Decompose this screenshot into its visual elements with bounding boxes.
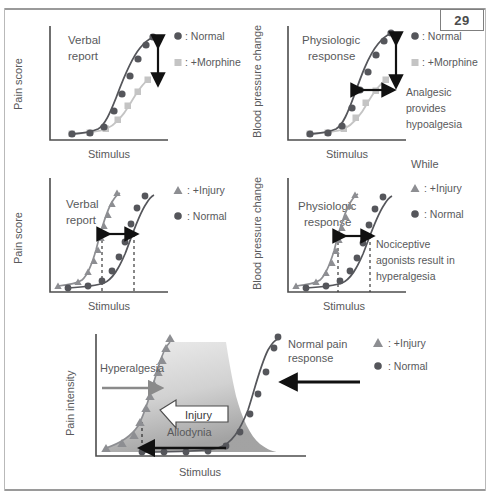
legend-label-injury: : +Injury xyxy=(424,182,462,194)
page-number-badge: 29 xyxy=(440,9,484,31)
legend: : Normal : +Morphine xyxy=(411,30,478,68)
label-allodynia: Allodynia xyxy=(167,426,213,438)
note-line2: provides xyxy=(406,102,446,114)
panel-top-left: Pain score Stimulus Verbal report xyxy=(6,12,246,162)
panel-title-line2: response xyxy=(308,50,355,62)
label-normal-line2: response xyxy=(288,352,333,364)
square-marker xyxy=(175,59,182,66)
page-rule-top xyxy=(4,8,486,10)
circle-marker xyxy=(174,32,182,40)
circle-marker xyxy=(411,32,419,40)
legend-label-normal: : Normal xyxy=(424,208,464,220)
panel-bottom: Pain intensity Stimulus xyxy=(60,326,490,491)
series-morphine xyxy=(307,77,390,138)
panel-title-line1: Verbal xyxy=(66,198,99,210)
panel-top-right: Blood pressure change Stimulus Physiolog… xyxy=(248,12,488,162)
label-injury: Injury xyxy=(185,409,212,421)
panel-title-line1: Verbal xyxy=(68,34,101,46)
legend-label-injury: : +Injury xyxy=(388,337,426,349)
note-analgesic: Analgesic provides hypoalgesia xyxy=(406,86,462,130)
panel-title-line1: Physiologic xyxy=(302,34,360,46)
x-axis-label: Stimulus xyxy=(179,466,222,478)
circle-marker xyxy=(174,212,182,220)
circle-marker xyxy=(411,210,419,218)
note-nociceptive: Nociceptive agonists result in hyperalge… xyxy=(376,238,455,282)
triangle-marker xyxy=(411,184,420,192)
label-normal-line1: Normal pain xyxy=(288,338,347,350)
x-axis-label: Stimulus xyxy=(323,300,366,312)
y-axis-label: Blood pressure change xyxy=(251,177,263,290)
legend-label-morphine: : +Morphine xyxy=(185,56,241,68)
square-marker xyxy=(412,59,419,66)
connector-while: While xyxy=(411,158,439,170)
panel-mid-left: Pain score Stimulus Verbal report xyxy=(6,168,246,318)
y-axis-label: Pain score xyxy=(12,58,24,110)
series-morphine xyxy=(69,77,152,138)
legend-label-normal: : Normal xyxy=(185,30,225,42)
note-line3: hyperalgesia xyxy=(376,270,436,282)
triangle-marker xyxy=(373,338,383,347)
note-line1: Nociceptive xyxy=(376,238,430,250)
panel-title-line2: report xyxy=(68,50,99,62)
legend-label-injury: : +Injury xyxy=(187,184,225,196)
y-axis-label: Pain score xyxy=(12,212,24,264)
legend: : +Injury : Normal xyxy=(174,184,227,222)
x-axis-label: Stimulus xyxy=(88,300,131,312)
legend: : +Injury : Normal xyxy=(373,337,428,372)
y-axis-label: Blood pressure change xyxy=(251,25,263,138)
legend-label-normal: : Normal xyxy=(422,30,462,42)
panel-mid-right: While Blood pressure change Stimulus Phy… xyxy=(248,152,488,320)
note-line2: agonists result in xyxy=(376,254,455,266)
note-line1: Analgesic xyxy=(406,86,452,98)
legend: : +Injury : Normal xyxy=(411,182,464,220)
y-axis-label: Pain intensity xyxy=(64,370,76,436)
legend: : Normal : +Morphine xyxy=(174,30,241,68)
page-frame-left xyxy=(4,8,5,491)
label-hyperalgesia: Hyperalgesia xyxy=(100,362,165,374)
panel-title-line2: report xyxy=(66,214,97,226)
triangle-marker xyxy=(174,186,183,194)
note-line3: hypoalgesia xyxy=(406,118,462,130)
x-axis-label: Stimulus xyxy=(88,148,131,160)
circle-marker xyxy=(374,362,382,370)
figure-page: 29 Pain score Stimulus Verbal report xyxy=(0,0,490,499)
legend-label-normal: : Normal xyxy=(187,210,227,222)
legend-label-morphine: : +Morphine xyxy=(422,56,478,68)
legend-label-normal: : Normal xyxy=(388,360,428,372)
